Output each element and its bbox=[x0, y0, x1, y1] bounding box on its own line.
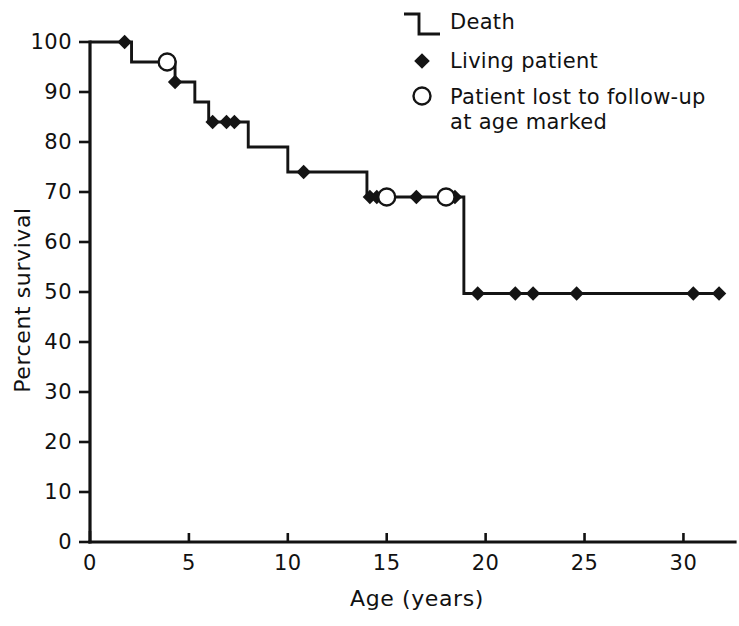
living-patient-marker bbox=[168, 75, 182, 89]
living-patient-marker bbox=[227, 115, 241, 129]
filled-diamond-icon bbox=[414, 53, 430, 69]
y-tick-label: 80 bbox=[44, 130, 72, 154]
x-tick-label: 5 bbox=[182, 551, 196, 575]
y-tick-label: 40 bbox=[44, 330, 72, 354]
y-tick-label: 100 bbox=[30, 30, 72, 54]
y-tick-label: 60 bbox=[44, 230, 72, 254]
y-tick-label: 10 bbox=[44, 480, 72, 504]
legend-label-death: Death bbox=[450, 10, 515, 34]
living-patient-marker bbox=[117, 35, 131, 49]
legend-label-lost-followup-line2: at age marked bbox=[450, 110, 607, 134]
x-tick-label: 10 bbox=[274, 551, 302, 575]
x-axis-ticks bbox=[90, 531, 683, 542]
x-axis-tick-labels: 051015202530 bbox=[83, 551, 697, 575]
y-tick-label: 0 bbox=[58, 530, 72, 554]
death-step-icon bbox=[404, 14, 440, 34]
living-patient-marker bbox=[569, 286, 583, 300]
y-tick-label: 90 bbox=[44, 80, 72, 104]
living-patient-marker bbox=[712, 286, 726, 300]
legend-label-lost-followup: Patient lost to follow-up bbox=[450, 85, 706, 109]
y-axis-ticks bbox=[79, 42, 90, 542]
lost-to-followup-marker bbox=[159, 54, 176, 71]
x-tick-label: 25 bbox=[571, 551, 599, 575]
living-patient-marker bbox=[508, 286, 522, 300]
y-axis-title: Percent survival bbox=[10, 207, 35, 393]
lost-to-followup-markers bbox=[159, 54, 455, 206]
x-tick-label: 30 bbox=[670, 551, 698, 575]
living-patient-marker bbox=[296, 165, 310, 179]
y-axis-tick-labels: 0102030405060708090100 bbox=[30, 30, 72, 554]
x-axis-title: Age (years) bbox=[350, 586, 484, 611]
open-circle-icon bbox=[414, 88, 431, 105]
living-patient-markers bbox=[117, 35, 726, 301]
survival-step-curve bbox=[90, 42, 723, 294]
living-patient-marker bbox=[526, 286, 540, 300]
survival-chart-figure: 0102030405060708090100 051015202530 Age … bbox=[0, 0, 739, 626]
living-patient-marker bbox=[471, 286, 485, 300]
x-tick-label: 0 bbox=[83, 551, 97, 575]
y-tick-label: 20 bbox=[44, 430, 72, 454]
x-tick-label: 20 bbox=[472, 551, 500, 575]
y-tick-label: 30 bbox=[44, 380, 72, 404]
x-tick-label: 15 bbox=[373, 551, 401, 575]
living-patient-marker bbox=[686, 286, 700, 300]
kaplan-meier-plot: 0102030405060708090100 051015202530 Age … bbox=[0, 0, 739, 626]
lost-to-followup-marker bbox=[438, 189, 455, 206]
living-patient-marker bbox=[409, 190, 423, 204]
y-tick-label: 50 bbox=[44, 280, 72, 304]
lost-to-followup-marker bbox=[378, 189, 395, 206]
chart-legend: Death Living patient Patient lost to fol… bbox=[404, 10, 706, 134]
y-tick-label: 70 bbox=[44, 180, 72, 204]
legend-label-living-patient: Living patient bbox=[450, 49, 598, 73]
